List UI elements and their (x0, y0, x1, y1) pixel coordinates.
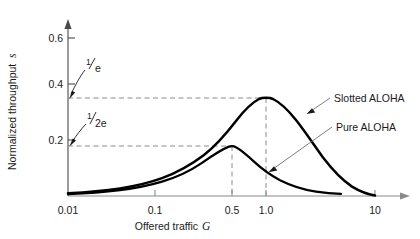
y-tick-label-0.6: 0.6 (48, 32, 63, 44)
label-slotted-aloha: Slotted ALOHA (307, 92, 405, 114)
pure-aloha-label-text: Pure ALOHA (336, 121, 396, 133)
one-over-e-denominator: e (95, 62, 101, 74)
axes-group (64, 19, 410, 200)
x-tick-label-1.0: 1.0 (259, 204, 274, 216)
x-axis-title-symbol: G (202, 220, 211, 232)
label-pure-aloha: Pure ALOHA (269, 121, 397, 172)
y-tick-label-0.4: 0.4 (48, 78, 63, 90)
axis-titles: Offered traffic G Normalized throughput … (6, 53, 211, 232)
x-tick-label-0.1: 0.1 (148, 204, 163, 216)
pure-aloha-leader-line (273, 127, 332, 169)
x-tick-label-0.5: 0.5 (225, 204, 240, 216)
y-axis-arrowhead (64, 19, 71, 29)
y-tick-labels: 0.6 0.4 0.2 (48, 32, 63, 146)
x-axis-title: Offered traffic (135, 220, 198, 232)
curve-slotted-aloha (68, 98, 375, 196)
x-tick-label-10: 10 (369, 204, 381, 216)
one-over-e-arrow-line (71, 70, 85, 94)
x-tick-labels: 0.01 0.1 0.5 1.0 10 (58, 204, 381, 216)
aloha-throughput-chart: 0.6 0.4 0.2 0.01 0.1 0.5 1.0 10 (0, 0, 420, 239)
one-over-e-numerator: 1 (86, 57, 91, 67)
one-over-2e-numerator: 1 (87, 111, 92, 121)
one-over-2e-denominator: 2e (95, 117, 107, 129)
slotted-aloha-label-text: Slotted ALOHA (334, 92, 405, 104)
data-curves (68, 98, 375, 196)
annotation-1-over-2e: 1 2e (69, 111, 106, 147)
y-axis-title-symbol: s (6, 53, 18, 58)
annotation-1-over-e: 1 e (69, 57, 101, 99)
y-tick-label-0.2: 0.2 (48, 134, 63, 146)
x-tick-marks (155, 190, 375, 196)
slotted-aloha-leader-line (311, 98, 330, 111)
x-tick-label-0.01: 0.01 (58, 204, 79, 216)
chart-figure: 0.6 0.4 0.2 0.01 0.1 0.5 1.0 10 (0, 0, 420, 239)
y-axis-title: Normalized throughput (6, 64, 18, 170)
x-axis-arrowhead (400, 192, 410, 199)
